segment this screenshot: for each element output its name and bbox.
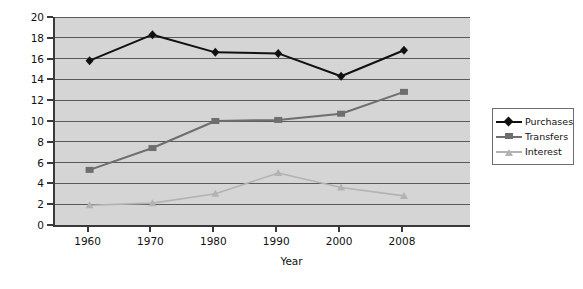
legend-item-purchases[interactable]: Purchases bbox=[496, 114, 569, 129]
legend-marker-diamond-icon bbox=[504, 116, 514, 126]
series-interest bbox=[86, 169, 408, 208]
x-axis-tick-label: 1990 bbox=[251, 236, 301, 247]
y-axis-tick bbox=[47, 203, 53, 205]
y-axis-tick-label: 12 bbox=[20, 95, 44, 105]
legend-swatch-triangle-icon bbox=[496, 146, 522, 158]
x-axis-tick-label: 1970 bbox=[125, 236, 175, 247]
legend-label: Interest bbox=[525, 146, 562, 157]
legend-label: Purchases bbox=[525, 116, 573, 127]
data-point-marker bbox=[274, 169, 282, 176]
y-axis-tick bbox=[47, 224, 53, 226]
x-axis-tick-label: 2000 bbox=[314, 236, 364, 247]
legend-marker-triangle-icon bbox=[505, 149, 513, 156]
y-axis-tick bbox=[47, 162, 53, 164]
data-point-marker bbox=[337, 111, 345, 117]
data-point-marker bbox=[400, 89, 408, 95]
legend-swatch-diamond-icon bbox=[496, 116, 522, 128]
y-axis-tick bbox=[47, 37, 53, 39]
data-point-marker bbox=[148, 145, 156, 151]
series-purchases bbox=[86, 30, 408, 81]
x-axis-tick-label: 1980 bbox=[188, 236, 238, 247]
data-point-marker bbox=[148, 30, 156, 39]
x-axis-tick bbox=[275, 225, 277, 232]
y-axis-tick-label: 4 bbox=[20, 178, 44, 188]
series-line bbox=[90, 173, 404, 205]
data-point-marker bbox=[211, 118, 219, 124]
data-point-marker bbox=[86, 56, 94, 65]
series-transfers bbox=[86, 89, 408, 173]
series-layer bbox=[55, 17, 470, 225]
y-axis-tick bbox=[47, 120, 53, 122]
y-axis-tick-label: 18 bbox=[20, 33, 44, 43]
y-axis-tick-label: 0 bbox=[20, 220, 44, 230]
plot-inner bbox=[55, 17, 470, 225]
y-axis-tick-label: 6 bbox=[20, 158, 44, 168]
y-axis-tick bbox=[47, 182, 53, 184]
chart-figure: Percent Year 024681012141618201960197019… bbox=[0, 0, 583, 289]
x-axis-tick-label: 2008 bbox=[377, 236, 427, 247]
y-axis-tick bbox=[47, 99, 53, 101]
legend-label: Transfers bbox=[525, 131, 568, 142]
x-axis-tick bbox=[149, 225, 151, 232]
x-axis-tick bbox=[87, 225, 89, 232]
data-point-marker bbox=[211, 48, 219, 57]
data-point-marker bbox=[86, 167, 94, 173]
legend-item-interest[interactable]: Interest bbox=[496, 144, 569, 159]
y-axis-tick-label: 14 bbox=[20, 74, 44, 84]
plot-area bbox=[53, 17, 470, 227]
x-axis-tick-label: 1960 bbox=[63, 236, 113, 247]
y-axis-tick bbox=[47, 16, 53, 18]
legend-item-transfers[interactable]: Transfers bbox=[496, 129, 569, 144]
data-point-marker bbox=[274, 49, 282, 58]
data-point-marker bbox=[274, 117, 282, 123]
data-point-marker bbox=[400, 46, 408, 55]
y-axis-tick-label: 20 bbox=[20, 12, 44, 22]
y-axis-tick-label: 10 bbox=[20, 116, 44, 126]
y-axis-tick-label: 2 bbox=[20, 199, 44, 209]
x-axis-tick bbox=[401, 225, 403, 232]
chart-legend: PurchasesTransfersInterest bbox=[492, 108, 574, 165]
legend-marker-square-icon bbox=[505, 133, 513, 139]
x-axis-tick bbox=[338, 225, 340, 232]
x-axis-tick bbox=[212, 225, 214, 232]
y-axis-tick bbox=[47, 78, 53, 80]
legend-swatch-square-icon bbox=[496, 131, 522, 143]
series-line bbox=[90, 35, 404, 77]
y-axis-tick bbox=[47, 58, 53, 60]
y-axis-tick bbox=[47, 141, 53, 143]
y-axis-tick-label: 8 bbox=[20, 137, 44, 147]
series-line bbox=[90, 92, 404, 170]
data-point-marker bbox=[337, 72, 345, 81]
y-axis-tick-label: 16 bbox=[20, 54, 44, 64]
x-axis-title: Year bbox=[0, 255, 583, 267]
